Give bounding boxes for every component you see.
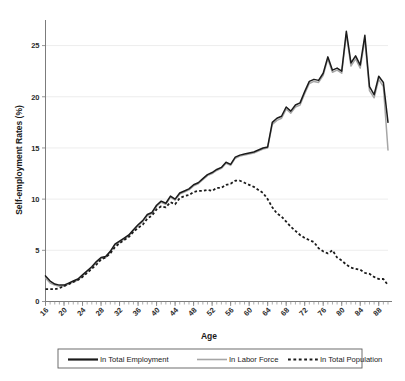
y-tick-label-15: 15: [31, 144, 39, 153]
self-employment-rates-line-chart: 0510152025 16202428323640444852566064687…: [0, 0, 405, 381]
legend-label-1: In Labor Force: [229, 355, 278, 364]
chart-figure: 0510152025 16202428323640444852566064687…: [0, 0, 405, 381]
legend-label-2: In Total Population: [320, 355, 382, 364]
y-axis-title: Self-employment Rates (%): [14, 105, 24, 215]
y-tick-label-5: 5: [35, 246, 39, 255]
x-axis-title: Age: [201, 331, 217, 341]
legend-label-0: In Total Employment: [100, 355, 170, 364]
y-tick-label-10: 10: [31, 195, 39, 204]
y-tick-label-20: 20: [31, 93, 39, 102]
y-tick-label-0: 0: [35, 297, 39, 306]
y-tick-label-25: 25: [31, 41, 39, 50]
chart-legend: In Total EmploymentIn Labor ForceIn Tota…: [58, 349, 382, 368]
